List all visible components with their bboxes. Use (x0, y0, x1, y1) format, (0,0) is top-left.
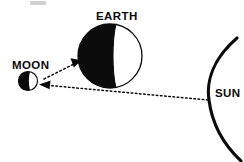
earth-body (78, 24, 142, 88)
earth-label: EARTH (96, 10, 138, 22)
sun-arc-icon (208, 38, 241, 161)
eclipse-diagram: MOON EARTH SUN (0, 0, 244, 162)
earth-night-side (78, 24, 116, 88)
diagram-canvas: MOON EARTH SUN (0, 0, 244, 162)
sun-label: SUN (215, 87, 240, 99)
sun-to-moon-arrowhead-icon (39, 80, 51, 89)
sun-to-moon-line (44, 85, 208, 100)
moon-body (19, 72, 38, 91)
arrow-moon-to-earth (44, 58, 82, 79)
moon-label: MOON (12, 59, 49, 71)
sun-body (208, 38, 241, 161)
moon-night-side (19, 72, 31, 91)
